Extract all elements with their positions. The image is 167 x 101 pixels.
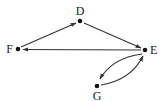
node-g [95, 84, 100, 89]
edge-g-to-e [101, 56, 143, 85]
edge-e-to-f [23, 50, 141, 51]
label-e: E [150, 43, 157, 57]
label-f: F [6, 42, 13, 56]
node-d [78, 19, 83, 24]
label-d: D [76, 4, 85, 18]
edge-d-to-e [84, 23, 141, 48]
node-f [16, 47, 21, 52]
directed-graph: D E F G [0, 0, 167, 101]
node-e [143, 48, 148, 53]
edge-f-to-d [21, 23, 76, 47]
label-g: G [93, 89, 102, 101]
